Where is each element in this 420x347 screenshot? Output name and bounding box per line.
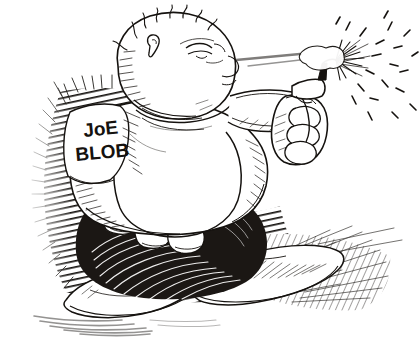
fist bbox=[272, 95, 328, 165]
joe-blob-cartoon: JoE BLOB bbox=[0, 0, 420, 347]
illustration-canvas: JoE BLOB bbox=[0, 0, 420, 347]
fingers bbox=[285, 106, 320, 164]
shirt-label-line-1: JoE bbox=[82, 116, 119, 141]
